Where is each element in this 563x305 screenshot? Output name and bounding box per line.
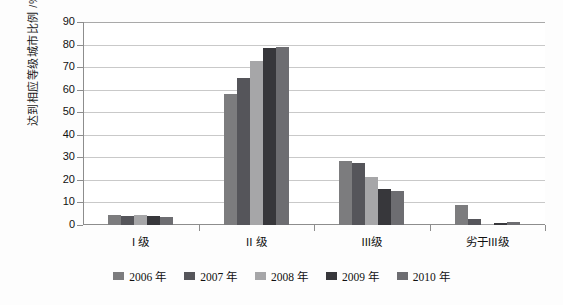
x-axis-label: 劣于III级	[430, 233, 546, 249]
bar	[237, 78, 250, 225]
bar	[339, 161, 352, 225]
chart-legend: 2006 年2007 年2008 年2009 年2010 年	[0, 268, 563, 284]
bar	[263, 48, 276, 225]
x-axis-label: III级	[314, 233, 430, 249]
bar-group	[430, 22, 546, 225]
y-tick-label-10: 10	[47, 195, 75, 207]
bar	[224, 94, 237, 225]
legend-item[interactable]: 2006 年	[113, 268, 166, 284]
y-tick-label-30: 30	[47, 150, 75, 162]
legend-item[interactable]: 2008 年	[255, 268, 308, 284]
y-tick-label-20: 20	[47, 173, 75, 185]
legend-swatch-icon	[113, 272, 124, 280]
x-axis-label: I 级	[83, 233, 199, 249]
bar	[494, 223, 507, 225]
y-tick-label-80: 80	[47, 38, 75, 50]
bar-group	[83, 22, 199, 225]
bar	[352, 163, 365, 225]
bars-layer	[83, 22, 545, 225]
y-tick-label-0: 0	[47, 218, 75, 230]
legend-label: 2007 年	[200, 268, 237, 284]
x-tick-mark	[314, 225, 315, 231]
bar	[468, 219, 481, 225]
bar	[455, 205, 468, 225]
legend-item[interactable]: 2007 年	[184, 268, 237, 284]
bar	[147, 216, 160, 225]
y-axis-title: 达到相应等级城市比例 /%	[24, 0, 40, 150]
y-tick-label-50: 50	[47, 105, 75, 117]
bar	[250, 61, 263, 225]
bar-group	[314, 22, 430, 225]
bar	[378, 189, 391, 225]
x-tick-mark	[430, 225, 431, 231]
x-axis-label: II 级	[199, 233, 315, 249]
legend-swatch-icon	[397, 272, 408, 280]
y-tick-label-60: 60	[47, 83, 75, 95]
legend-item[interactable]: 2009 年	[326, 268, 379, 284]
bar	[481, 224, 494, 225]
y-tick-label-40: 40	[47, 128, 75, 140]
bar	[507, 222, 520, 225]
legend-swatch-icon	[326, 272, 337, 280]
bar	[160, 217, 173, 225]
bar-group	[199, 22, 315, 225]
bar	[108, 215, 121, 225]
x-tick-mark	[545, 225, 546, 231]
bar	[121, 216, 134, 225]
bar	[391, 191, 404, 225]
legend-swatch-icon	[255, 272, 266, 280]
bar	[134, 215, 147, 225]
y-tick-label-90: 90	[47, 15, 75, 27]
legend-label: 2008 年	[271, 268, 308, 284]
legend-swatch-icon	[184, 272, 195, 280]
y-tick-label-70: 70	[47, 60, 75, 72]
legend-label: 2006 年	[129, 268, 166, 284]
legend-label: 2009 年	[342, 268, 379, 284]
bar	[276, 47, 289, 225]
x-tick-mark	[199, 225, 200, 231]
bar-chart: 达到相应等级城市比例 /% 9080706050403020100 I 级II …	[0, 0, 563, 305]
bar	[365, 177, 378, 225]
legend-item[interactable]: 2010 年	[397, 268, 450, 284]
y-tick-mark-0	[77, 225, 83, 226]
legend-label: 2010 年	[413, 268, 450, 284]
